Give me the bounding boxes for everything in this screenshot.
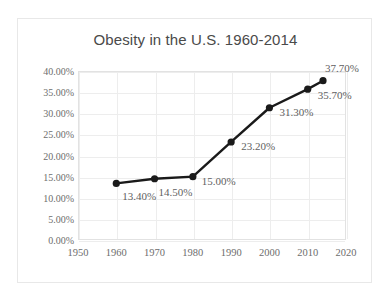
y-axis-tick-label: 40.00%: [18, 66, 74, 77]
y-axis-tick-label: 15.00%: [18, 171, 74, 182]
y-axis-tick-label: 25.00%: [18, 129, 74, 140]
y-axis-tick-label: 0.00%: [18, 235, 74, 246]
chart-frame: Obesity in the U.S. 1960-2014 0.00%5.00%…: [17, 18, 372, 283]
x-axis-tick-label: 1970: [144, 247, 165, 258]
y-axis-tick-label: 20.00%: [18, 150, 74, 161]
x-axis-tick-labels: 19501960197019801990200020102020: [78, 247, 346, 267]
y-axis-tick-label: 35.00%: [18, 87, 74, 98]
x-axis-tick-label: 2000: [259, 247, 280, 258]
gridline-horizontal: [79, 241, 345, 242]
chart-title: Obesity in the U.S. 1960-2014: [18, 31, 373, 48]
data-point-label: 15.00%: [202, 175, 236, 187]
data-value-labels: 13.40%14.50%15.00%23.20%31.30%35.70%37.7…: [78, 71, 346, 240]
x-axis-tick-label: 1990: [221, 247, 242, 258]
y-axis-tick-label: 30.00%: [18, 108, 74, 119]
data-point-label: 14.50%: [159, 186, 193, 198]
x-axis-tick-label: 2020: [336, 247, 357, 258]
x-axis-tick-label: 2010: [297, 247, 318, 258]
data-point-label: 31.30%: [279, 106, 313, 118]
x-axis-tick-label: 1960: [106, 247, 127, 258]
data-point-label: 13.40%: [122, 190, 156, 202]
x-axis-tick-label: 1980: [182, 247, 203, 258]
data-point-label: 35.70%: [318, 89, 352, 101]
data-point-label: 37.70%: [325, 62, 359, 74]
y-axis-tick-label: 5.00%: [18, 213, 74, 224]
data-point-label: 23.20%: [241, 140, 275, 152]
x-axis-tick-label: 1950: [68, 247, 89, 258]
y-axis-tick-labels: 0.00%5.00%10.00%15.00%20.00%25.00%30.00%…: [18, 71, 74, 240]
y-axis-tick-label: 10.00%: [18, 192, 74, 203]
